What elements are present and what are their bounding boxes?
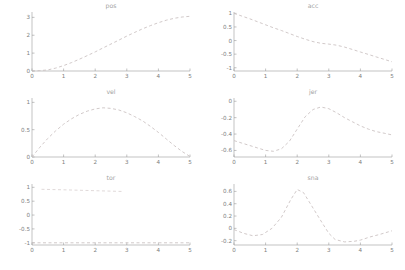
x-tick-label: 1 bbox=[62, 73, 66, 79]
x-tick-label: 0 bbox=[30, 159, 34, 165]
y-tick-label: 0 bbox=[228, 98, 232, 104]
x-tick-label: 1 bbox=[264, 247, 268, 253]
x-tick-label: 5 bbox=[390, 247, 394, 253]
y-tick-label: 0.6 bbox=[223, 188, 232, 194]
x-tick-label: 4 bbox=[359, 247, 363, 253]
x-tick-label: 2 bbox=[295, 73, 299, 79]
y-tick-label: -0.2 bbox=[221, 238, 232, 244]
subplot-tor: 012345-1-0.500.51tor bbox=[0, 172, 203, 260]
x-tick-label: 0 bbox=[232, 159, 236, 165]
y-tick-label: 0 bbox=[26, 68, 30, 74]
y-tick-label: 0.2 bbox=[223, 213, 232, 219]
y-tick-label: 1 bbox=[26, 50, 30, 56]
x-tick-label: 5 bbox=[390, 73, 394, 79]
y-tick-label: 0.5 bbox=[21, 198, 30, 204]
x-tick-label: 3 bbox=[327, 73, 331, 79]
x-tick-label: 4 bbox=[157, 247, 161, 253]
x-tick-label: 3 bbox=[327, 159, 331, 165]
series-line-snap bbox=[234, 190, 392, 242]
subplot-vel: 01234500.51vel bbox=[0, 86, 203, 172]
y-tick-label: -0.5 bbox=[221, 51, 232, 57]
y-tick-label: 1 bbox=[228, 10, 232, 16]
y-tick-label: -0.5 bbox=[19, 226, 30, 232]
x-tick-label: 0 bbox=[232, 73, 236, 79]
x-tick-label: 4 bbox=[157, 73, 161, 79]
y-tick-label: -1 bbox=[24, 240, 30, 246]
x-tick-label: 1 bbox=[264, 159, 268, 165]
y-tick-label: -1 bbox=[226, 65, 232, 71]
x-tick-label: 3 bbox=[125, 73, 129, 79]
y-tick-label: 0.5 bbox=[21, 127, 30, 133]
series-line-jerk bbox=[234, 107, 392, 151]
y-tick-label: 1 bbox=[26, 99, 30, 105]
figure-canvas: 0123450123pos012345-1-0.500.51acc0123450… bbox=[0, 0, 405, 270]
x-tick-label: 3 bbox=[125, 159, 129, 165]
x-tick-label: 2 bbox=[295, 159, 299, 165]
y-tick-label: 0.5 bbox=[223, 24, 232, 30]
y-tick-label: 0 bbox=[228, 38, 232, 44]
y-tick-label: 1 bbox=[26, 184, 30, 190]
chart-title: sna bbox=[308, 174, 319, 181]
chart-title: acc bbox=[308, 2, 319, 9]
series-line-position bbox=[32, 16, 190, 71]
y-tick-label: 0.4 bbox=[223, 201, 232, 207]
x-tick-label: 2 bbox=[295, 247, 299, 253]
x-tick-label: 2 bbox=[93, 73, 97, 79]
subplot-sna: 012345-0.200.20.40.6sna bbox=[202, 172, 405, 260]
x-tick-label: 5 bbox=[188, 73, 192, 79]
x-tick-label: 3 bbox=[125, 247, 129, 253]
x-tick-label: 1 bbox=[62, 247, 66, 253]
x-tick-label: 1 bbox=[62, 159, 66, 165]
series-line-acceleration bbox=[234, 13, 392, 61]
x-tick-label: 2 bbox=[93, 159, 97, 165]
y-tick-label: -0.6 bbox=[221, 147, 232, 153]
chart-title: pos bbox=[106, 2, 117, 10]
y-tick-label: 0 bbox=[228, 225, 232, 231]
subplot-jer: 012345-0.6-0.4-0.20jer bbox=[202, 86, 405, 172]
series-line-velocity bbox=[32, 108, 190, 157]
subplot-acc: 012345-1-0.500.51acc bbox=[202, 0, 405, 86]
x-tick-label: 4 bbox=[359, 159, 363, 165]
x-tick-label: 4 bbox=[157, 159, 161, 165]
y-tick-label: 3 bbox=[26, 14, 30, 20]
y-tick-label: -0.2 bbox=[221, 115, 232, 121]
chart-title: tor bbox=[107, 174, 116, 181]
y-tick-label: 2 bbox=[26, 32, 30, 38]
chart-title: vel bbox=[106, 88, 115, 95]
chart-title: jer bbox=[308, 88, 318, 96]
y-tick-label: 0 bbox=[26, 212, 30, 218]
x-tick-label: 0 bbox=[30, 73, 34, 79]
x-tick-label: 0 bbox=[30, 247, 34, 253]
subplot-pos: 0123450123pos bbox=[0, 0, 203, 86]
x-tick-label: 4 bbox=[359, 73, 363, 79]
x-tick-label: 0 bbox=[232, 247, 236, 253]
x-tick-label: 5 bbox=[188, 247, 192, 253]
series-line-upper-trace bbox=[42, 189, 124, 191]
x-tick-label: 3 bbox=[327, 247, 331, 253]
y-tick-label: 0 bbox=[26, 154, 30, 160]
x-tick-label: 2 bbox=[93, 247, 97, 253]
x-tick-label: 5 bbox=[390, 159, 394, 165]
y-tick-label: -0.4 bbox=[221, 131, 232, 137]
x-tick-label: 1 bbox=[264, 73, 268, 79]
x-tick-label: 5 bbox=[188, 159, 192, 165]
